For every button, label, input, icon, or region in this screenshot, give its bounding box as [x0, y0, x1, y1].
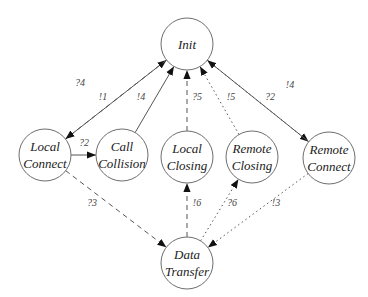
edge-label: ?5: [192, 91, 202, 102]
node-label: Transfer: [165, 264, 210, 279]
edge-remote-connect-to-data-transfer: [208, 174, 308, 248]
node-label: Data: [173, 247, 201, 262]
state-node-data-transfer: DataTransfer: [161, 237, 213, 289]
state-node-local-connect: LocalConnect: [19, 129, 71, 181]
edge-label: !5: [227, 91, 235, 102]
state-diagram: InitLocalConnectCallCollisionLocalClosin…: [0, 0, 368, 297]
state-node-call-collision: CallCollision: [96, 129, 148, 181]
edge-label: !3: [272, 197, 280, 208]
edge-local-connect-to-data-transfer: [66, 171, 167, 248]
node-label: Collision: [98, 156, 146, 171]
edge-label: ?4: [75, 77, 85, 88]
node-label: Connect: [307, 159, 351, 174]
nodes-layer: InitLocalConnectCallCollisionLocalClosin…: [19, 18, 355, 289]
node-circle: [303, 132, 355, 184]
edge-label: !4: [286, 79, 294, 90]
edge-label: ?2: [79, 137, 89, 148]
edge-label: !4: [137, 91, 145, 102]
node-label: Closing: [232, 158, 273, 173]
node-label: Local: [171, 141, 202, 156]
node-label: Local: [29, 139, 60, 154]
state-node-init: Init: [161, 18, 213, 70]
node-circle: [96, 129, 148, 181]
node-label: Closing: [167, 158, 208, 173]
edge-label: !6: [193, 197, 201, 208]
node-label: Connect: [23, 156, 67, 171]
node-label: Init: [177, 37, 196, 52]
state-node-remote-connect: RemoteConnect: [303, 132, 355, 184]
state-node-local-closing: LocalClosing: [161, 131, 213, 183]
node-circle: [161, 237, 213, 289]
node-circle: [161, 131, 213, 183]
edge-remote-connect-to-init: [207, 60, 308, 141]
node-label: Remote: [309, 142, 349, 157]
edge-data-transfer-to-remote-closing: [201, 179, 239, 241]
edge-label: ?3: [87, 197, 97, 208]
node-circle: [226, 131, 278, 183]
node-circle: [19, 129, 71, 181]
node-label: Remote: [232, 141, 272, 156]
edge-label: !1: [99, 91, 107, 102]
edge-label: ?2: [265, 91, 275, 102]
node-label: Call: [111, 139, 134, 154]
edge-init-to-local-connect: [66, 60, 167, 139]
state-node-remote-closing: RemoteClosing: [226, 131, 278, 183]
edge-label: ?6: [227, 197, 237, 208]
